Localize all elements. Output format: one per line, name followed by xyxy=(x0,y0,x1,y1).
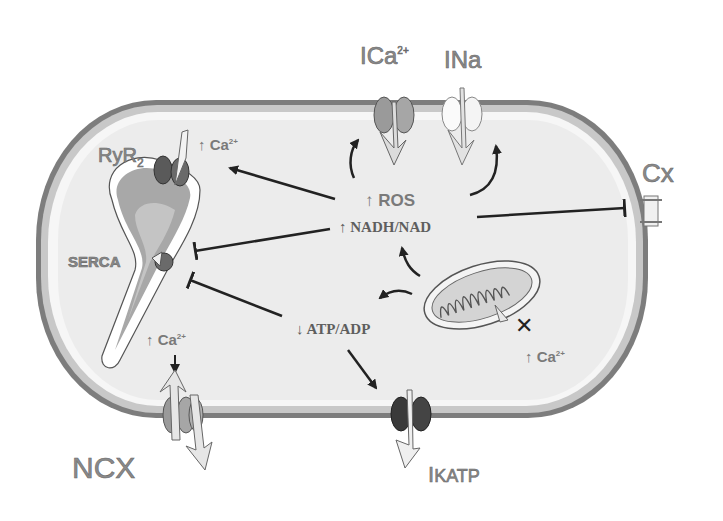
ncx-label: NCX xyxy=(72,451,135,484)
ros-label: ↑ ROS xyxy=(365,191,415,210)
serca-label: SERCA xyxy=(68,253,121,270)
cx-label: Cx xyxy=(642,158,674,188)
ica-label: ICa2+ xyxy=(360,42,409,69)
nadh-nad-label: ↑ NADH/NAD xyxy=(339,219,431,235)
blocked-mark-icon: ✕ xyxy=(515,313,533,338)
cell-diagram: RyR2 ↑ Ca2+ SERCA ICa2+ INa Cx ↑ ROS ↑ N… xyxy=(0,0,723,521)
atp-adp-label: ↓ ATP/ADP xyxy=(296,321,370,337)
ikatp-label: IKATP xyxy=(428,462,480,487)
ikatp-channel xyxy=(391,390,431,468)
ina-label: INa xyxy=(444,46,482,73)
